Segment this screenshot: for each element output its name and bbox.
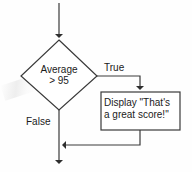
- flowchart-diagram: Average > 95 Display "That's a great sco…: [0, 0, 192, 172]
- process-node-label: Display "That's a great score!": [104, 97, 180, 121]
- process-label-line1: Display "That's: [104, 97, 180, 109]
- decision-label-line2: > 95: [24, 75, 94, 86]
- true-branch-label: True: [104, 62, 124, 73]
- false-branch-label: False: [26, 116, 50, 127]
- true-branch-connector: [97, 76, 140, 88]
- merge-connector: [64, 130, 140, 145]
- process-label-line2: a great score!": [104, 109, 180, 121]
- flowchart-graphics: [0, 0, 192, 172]
- decision-node-label: Average > 95: [24, 64, 94, 86]
- decision-label-line1: Average: [24, 64, 94, 75]
